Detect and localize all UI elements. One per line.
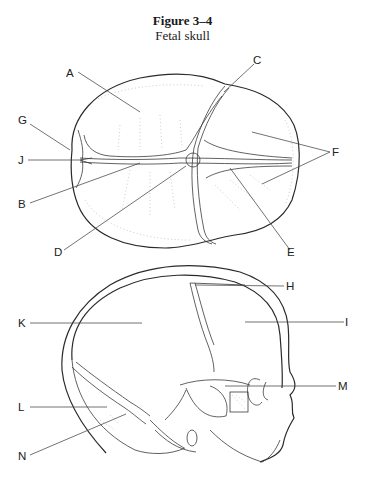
maxilla-block bbox=[230, 392, 248, 412]
coronal-suture-2 bbox=[197, 88, 229, 244]
leader-F-upper bbox=[252, 132, 330, 152]
skull-outline-lateral bbox=[72, 275, 283, 388]
label-K: K bbox=[18, 317, 26, 329]
label-D: D bbox=[54, 246, 62, 258]
label-F: F bbox=[332, 146, 339, 158]
superior-view-labels: A C F G J B D E bbox=[18, 54, 339, 258]
leader-D bbox=[64, 166, 186, 250]
lateral-view-leaders bbox=[30, 285, 344, 455]
posterior-fontanelle bbox=[76, 130, 83, 188]
label-N: N bbox=[18, 450, 26, 462]
fetal-skull-diagram: A C F G J B D E bbox=[0, 0, 365, 489]
label-C: C bbox=[253, 54, 261, 66]
mandible bbox=[210, 430, 280, 462]
label-J: J bbox=[18, 154, 24, 166]
leader-H bbox=[195, 285, 284, 286]
label-M: M bbox=[338, 380, 348, 392]
leader-E bbox=[230, 168, 290, 250]
sphenoid-region bbox=[180, 380, 250, 385]
lateral-view-skull bbox=[62, 266, 295, 462]
coronal-suture-lateral bbox=[190, 283, 214, 372]
lambdoid-suture bbox=[72, 367, 146, 424]
label-L: L bbox=[18, 401, 25, 413]
label-H: H bbox=[286, 280, 294, 292]
label-B: B bbox=[18, 198, 26, 210]
leader-C bbox=[224, 64, 254, 92]
orbit bbox=[248, 379, 263, 405]
label-I: I bbox=[345, 316, 348, 328]
lateral-view-labels: H I K M L N bbox=[18, 280, 348, 462]
leader-B bbox=[30, 163, 140, 203]
parietal-bone-upper-edge bbox=[84, 96, 222, 157]
ear-ossicle bbox=[187, 430, 197, 446]
label-A: A bbox=[66, 67, 74, 79]
label-E: E bbox=[287, 246, 295, 258]
leader-G bbox=[30, 124, 70, 150]
leader-A bbox=[78, 72, 140, 112]
superior-view-leaders bbox=[28, 64, 330, 250]
label-G: G bbox=[18, 114, 27, 126]
